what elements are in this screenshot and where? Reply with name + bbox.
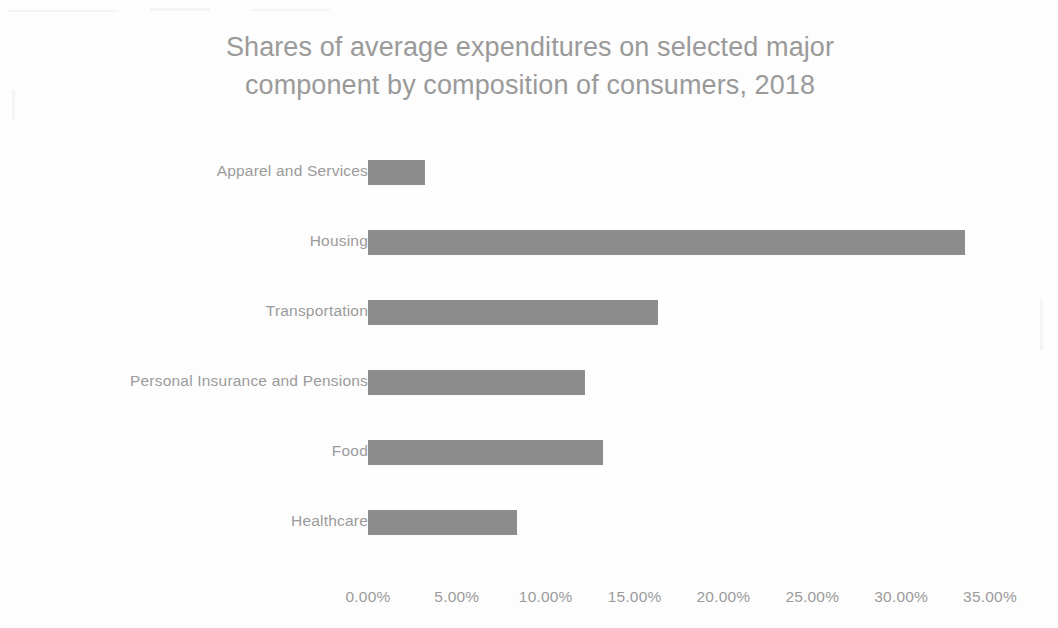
- x-tick-label: 5.00%: [412, 588, 502, 606]
- x-tick-label: 0.00%: [323, 588, 413, 606]
- bar-row: Food: [0, 430, 1058, 500]
- bar-transportation: [368, 300, 658, 325]
- bar-apparel-and-services: [368, 160, 425, 185]
- bar-row: Apparel and Services: [0, 150, 1058, 220]
- x-axis: 0.00% 5.00% 10.00% 15.00% 20.00% 25.00% …: [0, 588, 1058, 614]
- bar-row: Personal Insurance and Pensions: [0, 360, 1058, 430]
- bar-food: [368, 440, 603, 465]
- x-tick-label: 20.00%: [678, 588, 768, 606]
- bar-row: Housing: [0, 220, 1058, 290]
- bar-personal-insurance-and-pensions: [368, 370, 585, 395]
- category-label-healthcare: Healthcare: [8, 512, 368, 530]
- category-label-personal-insurance-and-pensions: Personal Insurance and Pensions: [8, 372, 368, 390]
- bar-healthcare: [368, 510, 517, 535]
- category-label-housing: Housing: [8, 232, 368, 250]
- x-tick-label: 15.00%: [590, 588, 680, 606]
- category-label-apparel-and-services: Apparel and Services: [8, 162, 368, 180]
- bar-housing: [368, 230, 965, 255]
- bar-row: Transportation: [0, 290, 1058, 360]
- x-tick-label: 25.00%: [767, 588, 857, 606]
- chart-title: Shares of average expenditures on select…: [120, 28, 940, 105]
- category-label-transportation: Transportation: [8, 302, 368, 320]
- chart-title-line-2: component by composition of consumers, 2…: [120, 66, 940, 104]
- x-tick-label: 35.00%: [945, 588, 1035, 606]
- chart-title-line-1: Shares of average expenditures on select…: [120, 28, 940, 66]
- x-tick-label: 30.00%: [856, 588, 946, 606]
- chart-figure: Shares of average expenditures on select…: [0, 0, 1058, 628]
- bar-row: Healthcare: [0, 500, 1058, 570]
- plot-area: Apparel and Services Housing Transportat…: [0, 150, 1058, 580]
- x-tick-label: 10.00%: [501, 588, 591, 606]
- category-label-food: Food: [8, 442, 368, 460]
